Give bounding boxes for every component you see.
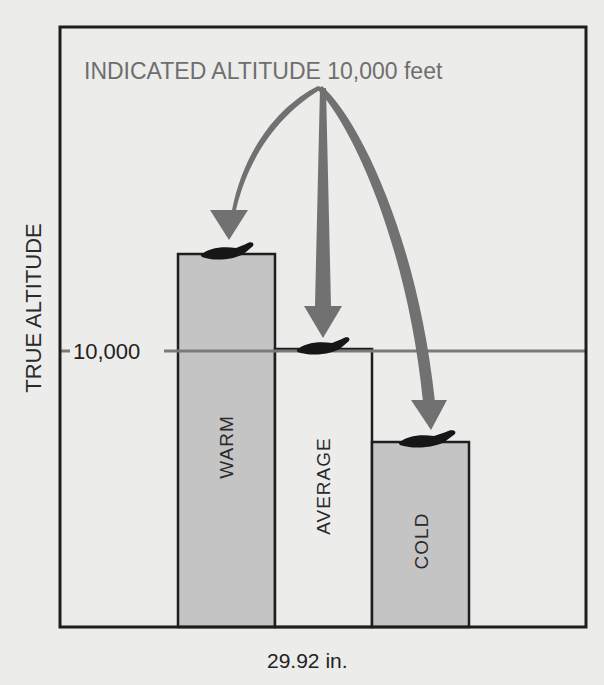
true-altitude-diagram: INDICATED ALTITUDE 10,000 feet TRUE ALTI… bbox=[0, 0, 604, 685]
bar-label-cold: COLD bbox=[411, 513, 432, 570]
bar-label-warm: WARM bbox=[216, 415, 237, 478]
x-axis-label: 29.92 in. bbox=[267, 649, 348, 672]
y-axis-label: TRUE ALTITUDE bbox=[21, 223, 46, 393]
arrow-to-average bbox=[315, 88, 331, 306]
arrow-to-warm bbox=[232, 86, 323, 210]
bar-label-average: AVERAGE bbox=[313, 437, 334, 534]
reference-label: 10,000 bbox=[73, 339, 140, 364]
title: INDICATED ALTITUDE 10,000 feet bbox=[84, 58, 443, 84]
